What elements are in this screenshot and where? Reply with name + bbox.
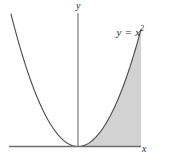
curve-equation-exponent: 2 (140, 24, 144, 33)
plot-canvas (0, 0, 172, 162)
y-axis-label: y (76, 0, 80, 11)
x-axis-label: x (142, 143, 146, 154)
curve-equation-base: y = x (117, 26, 141, 38)
curve-equation-label: y = x2 (117, 24, 145, 38)
parabola-figure: y = x2 y x (0, 0, 172, 162)
